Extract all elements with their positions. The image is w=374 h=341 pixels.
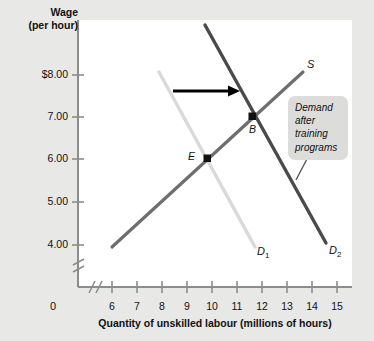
x-tick-label-10: 10: [200, 300, 224, 312]
y-axis-title-line2: (per hour): [8, 19, 78, 31]
demand-callout-box: Demand after training programs: [288, 96, 348, 160]
point-marker-E: [204, 155, 212, 163]
curve-label-demand-2: D2: [329, 244, 341, 259]
x-tick-label-13: 13: [275, 300, 299, 312]
callout-line-2: after: [295, 114, 342, 127]
x-tick-label-7: 7: [125, 300, 149, 312]
x-tick-label-14: 14: [300, 300, 324, 312]
y-tick-label-5: 5.00: [10, 195, 68, 207]
shift-arrow-icon: [173, 86, 240, 97]
economics-supply-demand-figure: Wage (per hour) $8.00 7.00 6.00 5.00 4.0…: [0, 0, 374, 341]
x-tick-label-15: 15: [325, 300, 349, 312]
origin-label: 0: [50, 300, 56, 313]
point-label-E: E: [188, 150, 195, 162]
callout-line-4: programs: [295, 141, 342, 154]
curve-label-supply: S: [307, 58, 314, 71]
point-marker-B: [249, 113, 257, 121]
x-tick-label-12: 12: [250, 300, 274, 312]
curve-label-demand-1-text: D: [257, 245, 265, 257]
y-tick-label-7: 7.00: [10, 110, 68, 122]
x-tick-label-9: 9: [175, 300, 199, 312]
curve-label-demand-2-sub: 2: [337, 250, 341, 259]
y-tick-label-8: $8.00: [10, 68, 68, 80]
x-tick-label-11: 11: [225, 300, 249, 312]
point-label-B: B: [249, 123, 256, 135]
x-tick-label-8: 8: [150, 300, 174, 312]
callout-line-3: training: [295, 127, 342, 140]
y-tick-label-6: 6.00: [10, 152, 68, 164]
x-tick-label-6: 6: [100, 300, 124, 312]
curve-label-demand-1-sub: 1: [265, 251, 269, 260]
x-axis-title: Quantity of unskilled labour (millions o…: [78, 317, 352, 329]
y-tick-label-4: 4.00: [10, 238, 68, 250]
callout-line-1: Demand: [295, 101, 342, 114]
callout-pointer-line: [296, 157, 308, 180]
curve-label-demand-2-text: D: [329, 244, 337, 256]
y-axis-title-line1: Wage: [26, 6, 78, 18]
curve-label-demand-1: D1: [257, 245, 269, 260]
chart-canvas: [0, 0, 374, 341]
